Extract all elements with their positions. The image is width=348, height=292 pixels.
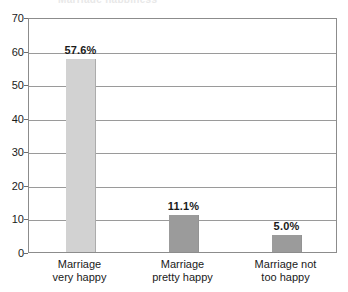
y-tick-label-70: 70 xyxy=(12,13,24,24)
x-axis-label: Marriagevery happy xyxy=(28,258,131,284)
y-tick-mark-20 xyxy=(24,186,28,187)
y-tick-mark-30 xyxy=(24,152,28,153)
y-tick-mark-50 xyxy=(24,85,28,86)
bar-value-label: 11.1% xyxy=(168,200,200,212)
y-tick-mark-70 xyxy=(24,18,28,19)
x-axis-label-line: Marriage xyxy=(28,258,131,271)
y-tick-label-20: 20 xyxy=(12,180,24,191)
bar-chart: Marriage happiness 706050403020100 57.6%… xyxy=(0,0,348,292)
y-tick-label-40: 40 xyxy=(12,113,24,124)
y-tick-label-60: 60 xyxy=(12,46,24,57)
x-axis-label: Marriage nottoo happy xyxy=(234,258,337,284)
x-axis-label-line: Marriage xyxy=(131,258,234,271)
y-tick-mark-0 xyxy=(24,253,28,254)
x-axis-label-line: very happy xyxy=(28,271,131,284)
x-axis-label-line: too happy xyxy=(234,271,337,284)
bar: 57.6% xyxy=(66,59,96,252)
y-tick-label-30: 30 xyxy=(12,147,24,158)
x-axis-label-line: Marriage not xyxy=(234,258,337,271)
x-axis-label-line: pretty happy xyxy=(131,271,234,284)
bar-fill xyxy=(66,59,96,252)
bar: 11.1% xyxy=(169,215,199,252)
y-tick-mark-10 xyxy=(24,219,28,220)
bar-fill xyxy=(272,235,302,252)
bar-fill xyxy=(169,215,199,252)
bar-value-label: 57.6% xyxy=(64,44,96,56)
y-tick-mark-40 xyxy=(24,119,28,120)
bar-value-label: 5.0% xyxy=(274,220,300,232)
x-axis-label: Marriagepretty happy xyxy=(131,258,234,284)
y-tick-label-50: 50 xyxy=(12,80,24,91)
bar: 5.0% xyxy=(272,235,302,252)
y-tick-label-10: 10 xyxy=(12,214,24,225)
y-tick-mark-60 xyxy=(24,52,28,53)
chart-title-remnant: Marriage happiness xyxy=(58,0,198,3)
y-axis: 706050403020100 xyxy=(0,0,24,292)
plot-area: 57.6%11.1%5.0% xyxy=(28,18,337,253)
